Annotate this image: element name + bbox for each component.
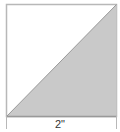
square-diagram	[0, 0, 120, 132]
dimension-label: 2"	[0, 117, 120, 131]
